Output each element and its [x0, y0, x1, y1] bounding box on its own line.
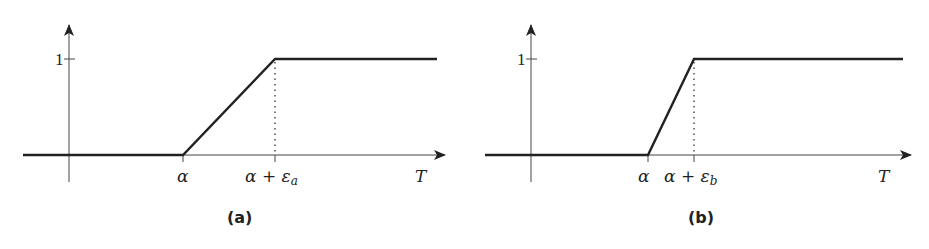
panel-caption: (b)	[688, 208, 714, 227]
alpha-eps-label: α + εb	[664, 166, 717, 188]
figure-canvas: 1 α α + εa T (a) 1 α α + εb T (b)	[0, 0, 929, 249]
alpha-eps-label: α + εa	[245, 166, 298, 188]
alpha-label: α	[638, 166, 650, 186]
ramp-curve	[23, 59, 437, 155]
y-tick-label: 1	[517, 50, 526, 69]
x-axis-label: T	[415, 166, 428, 186]
y-tick-label: 1	[55, 50, 64, 69]
alpha-label: α	[177, 166, 189, 186]
panel-a: 1 α α + εa T (a)	[23, 25, 445, 227]
panel-caption: (a)	[227, 208, 252, 227]
x-axis-label: T	[878, 166, 891, 186]
panel-b: 1 α α + εb T (b)	[485, 25, 911, 227]
